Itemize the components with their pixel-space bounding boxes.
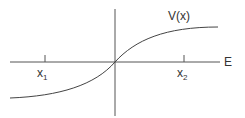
tick-label-x2: x2 <box>177 67 187 81</box>
tick-label-x1: x1 <box>37 67 47 81</box>
tick-label-x1-sub: 1 <box>43 73 47 82</box>
axis-label-e: E <box>224 56 232 68</box>
diagram-canvas <box>0 0 245 118</box>
tick-label-x2-sub: 2 <box>183 73 187 82</box>
curve-label: V(x) <box>168 10 190 22</box>
